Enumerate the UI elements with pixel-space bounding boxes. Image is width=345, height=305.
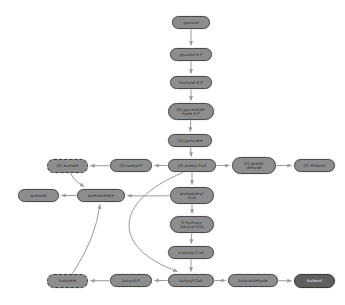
node-label-crotonylcoa: crotonyl-CoA [177, 251, 205, 255]
node-label-acetoacetate: acetoacetate [87, 194, 115, 198]
node-label-ethanol: (2) ethanol [303, 164, 327, 168]
node-label-pyruvate: (2) pyruvate [177, 139, 204, 143]
node-acetoacetylcoa[interactable]: acetoacetyl- CoA [170, 187, 214, 204]
node-glucose6p[interactable]: glucose 6-P [170, 48, 212, 61]
pathway-edges [0, 0, 345, 305]
node-label-acetoacetylcoa: acetoacetyl- CoA [179, 192, 206, 200]
node-label-butyrate: butyrate [58, 279, 77, 283]
node-pyruvate[interactable]: (2) pyruvate [168, 134, 212, 147]
node-label-acetaldehyde: (2) acetal- dehyde [243, 162, 266, 170]
pathway-diagram: glucoseglucose 6-Pfructose 6-P(2) glycer… [0, 0, 345, 305]
node-acetate[interactable]: (2) acetate [47, 159, 88, 173]
edge-acetate-to-acetoacetate [71, 174, 84, 187]
node-acetaldehyde[interactable]: (2) acetal- dehyde [232, 157, 276, 174]
node-label-glucose6p: glucose 6-P [179, 53, 204, 57]
node-acetoacetate[interactable]: acetoacetate [77, 189, 125, 202]
node-label-hydroxybutcoa: 3-hydroxy- butyryl-CoA [179, 221, 204, 229]
node-ethanol[interactable]: (2) ethanol [294, 159, 335, 172]
node-label-acetylcoa: (2) acetyl-CoA [177, 164, 207, 168]
node-acetylcoa[interactable]: (2) acetyl-CoA [168, 159, 216, 172]
node-butyrylcoa[interactable]: butyryl-CoA [168, 274, 214, 287]
node-acetone[interactable]: acetone [18, 189, 59, 202]
node-butyrate[interactable]: butyrate [47, 274, 88, 288]
node-butyraldehyde[interactable]: butyraldehyde [228, 274, 278, 287]
edge-pyruvate-to-acetylcoa [191, 148, 192, 157]
node-butyrylp[interactable]: butyryl-P [110, 274, 152, 287]
node-label-ga3p: (2) glyceralde- hyde 3-P [175, 108, 206, 116]
node-ga3p[interactable]: (2) glyceralde- hyde 3-P [168, 103, 214, 120]
node-crotonylcoa[interactable]: crotonyl-CoA [168, 246, 214, 259]
node-label-acetone: acetone [29, 194, 47, 198]
node-butanol[interactable]: butanol [294, 274, 335, 288]
node-label-butyrylp: butyryl-P [121, 279, 141, 283]
node-fructose6p[interactable]: fructose 6-P [170, 76, 212, 89]
node-acetylp[interactable]: (2) acetyl-P [110, 159, 152, 172]
node-label-acetylp: (2) acetyl-P [119, 164, 144, 168]
node-label-butyrylcoa: butyryl-CoA [178, 279, 203, 283]
node-glucose[interactable]: glucose [172, 16, 210, 29]
node-label-acetate: (2) acetate [55, 164, 79, 168]
node-hydroxybutcoa[interactable]: 3-hydroxy- butyryl-CoA [170, 216, 214, 233]
node-label-butanol: butanol [306, 279, 323, 283]
node-label-fructose6p: fructose 6-P [178, 81, 204, 85]
node-label-glucose: glucose [182, 21, 199, 25]
edge-butyrate-to-acetoacetate [73, 205, 100, 274]
node-label-butyraldehyde: butyraldehyde [238, 279, 269, 283]
